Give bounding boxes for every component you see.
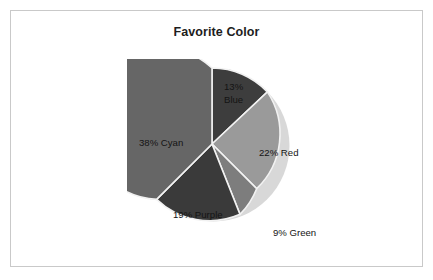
chart-frame: Favorite Color 13% Blue 22% Red 9% Green… [10, 10, 423, 267]
pie-label-blue-name: Blue [224, 94, 243, 107]
pie-label-green: 9% Green [273, 227, 316, 240]
pie-label-blue-percent: 13% [224, 81, 243, 94]
pie-label-cyan: 38% Cyan [139, 137, 183, 150]
pie-label-purple: 19% Purple [173, 209, 223, 222]
pie-chart: 13% Blue 22% Red 9% Green 19% Purple 38%… [11, 11, 424, 268]
pie-label-blue: 13% Blue [224, 81, 243, 106]
pie-label-red: 22% Red [259, 147, 298, 160]
